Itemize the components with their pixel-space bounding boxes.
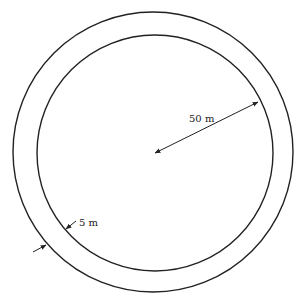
radius-label: 50 m [189, 113, 215, 124]
outer-circle [13, 12, 293, 292]
radius-arrow [155, 102, 258, 153]
ring-width-arrow-outer [33, 245, 46, 252]
ring-width-arrow-inner [66, 221, 76, 229]
ring-width-label: 5 m [79, 217, 99, 228]
annulus-diagram: 50 m 5 m [0, 0, 301, 302]
